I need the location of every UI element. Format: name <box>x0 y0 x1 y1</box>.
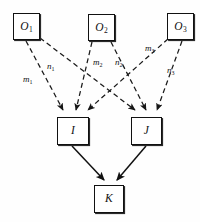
node-o1-label: O1 <box>20 21 32 33</box>
edge-label-n2: n2 <box>115 58 123 67</box>
edge-label-n1: n1 <box>47 62 55 71</box>
node-k[interactable]: K <box>94 185 124 213</box>
diagram-canvas: O1 O2 O3 I J K m1 n1 m2 n2 m3 n3 <box>0 0 200 222</box>
dashed-edge-group <box>26 38 182 110</box>
edge-label-m2: m2 <box>93 58 103 67</box>
node-j[interactable]: J <box>131 117 162 145</box>
edge-o3-to-i <box>88 39 168 110</box>
edge-i-to-k <box>72 146 104 180</box>
edge-o2-to-j <box>111 42 146 110</box>
node-o3[interactable]: O3 <box>167 13 194 40</box>
edge-label-m3: m3 <box>145 44 155 53</box>
node-o3-label: O3 <box>174 21 186 33</box>
edge-o1-to-j <box>40 38 135 110</box>
edge-label-n3: n3 <box>167 66 175 75</box>
edge-j-to-k <box>117 146 146 180</box>
node-j-label: J <box>144 125 149 137</box>
node-k-label: K <box>105 193 113 205</box>
node-o2-label: O2 <box>95 22 107 34</box>
edge-o3-to-j <box>157 41 182 110</box>
node-i[interactable]: I <box>57 117 89 145</box>
node-o1[interactable]: O1 <box>13 13 40 40</box>
node-i-label: I <box>71 125 75 137</box>
solid-edge-group <box>72 146 146 180</box>
edge-label-m1: m1 <box>23 75 33 84</box>
node-o2[interactable]: O2 <box>88 14 115 41</box>
